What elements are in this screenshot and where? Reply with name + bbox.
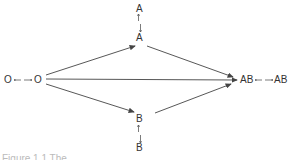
- node-b-mid: B: [136, 114, 143, 124]
- edge-o-to-b: [46, 84, 134, 112]
- edge-a-to-ab: [147, 46, 233, 77]
- node-b-bottom: B: [136, 143, 143, 153]
- figure-caption: Figure 1.1 The ...: [2, 153, 78, 160]
- node-o-right: O: [34, 75, 42, 85]
- node-a-top: A: [136, 4, 143, 14]
- node-a-mid: A: [136, 33, 143, 43]
- node-ab-left: AB: [240, 75, 253, 85]
- edge-o-to-ab: [46, 79, 237, 80]
- node-o-left: O: [4, 75, 12, 85]
- edge-o-to-a: [46, 46, 135, 75]
- edge-b-to-ab: [155, 84, 231, 113]
- node-ab-right: AB: [274, 75, 287, 85]
